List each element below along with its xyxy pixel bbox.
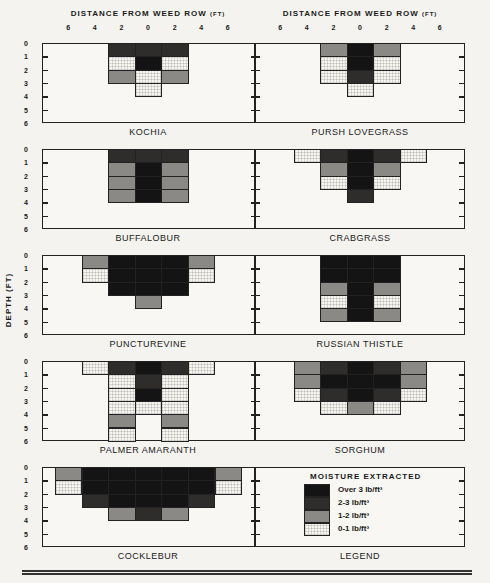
moisture-cell bbox=[320, 374, 348, 388]
moisture-cell bbox=[82, 268, 110, 282]
tick-mark bbox=[42, 322, 48, 324]
tick-mark bbox=[254, 96, 260, 98]
y-tick-label: 4 bbox=[24, 93, 28, 100]
tick-mark bbox=[42, 110, 48, 112]
moisture-cell bbox=[108, 361, 136, 375]
moisture-cell bbox=[161, 361, 189, 375]
moisture-cell bbox=[373, 295, 401, 309]
y-tick-label: 1 bbox=[24, 53, 28, 60]
y-tick-label: 4 bbox=[24, 305, 28, 312]
moisture-cell bbox=[347, 388, 375, 402]
y-tick-label: 6 bbox=[24, 119, 28, 126]
tick-mark bbox=[254, 428, 260, 430]
y-tick-label: 0 bbox=[24, 358, 28, 365]
moisture-cell bbox=[135, 361, 163, 375]
moisture-cell bbox=[320, 308, 348, 322]
moisture-cell bbox=[161, 507, 189, 521]
x-tick-label: 6 bbox=[66, 24, 70, 31]
moisture-cell bbox=[135, 467, 163, 481]
tick-mark bbox=[42, 268, 48, 270]
y-tick-label: 5 bbox=[24, 212, 28, 219]
tick-mark bbox=[254, 189, 260, 191]
moisture-cell bbox=[135, 176, 163, 190]
moisture-cell bbox=[347, 83, 375, 97]
moisture-cell bbox=[320, 401, 348, 415]
moisture-cell bbox=[373, 162, 401, 176]
moisture-cell bbox=[135, 162, 163, 176]
moisture-cell bbox=[108, 428, 136, 442]
moisture-cell bbox=[320, 149, 348, 163]
y-tick-label: 2 bbox=[24, 278, 28, 285]
moisture-cell bbox=[400, 388, 428, 402]
tick-mark bbox=[254, 480, 260, 482]
moisture-cell bbox=[320, 56, 348, 70]
tick-mark bbox=[254, 162, 260, 164]
tick-mark bbox=[459, 282, 465, 284]
moisture-cell bbox=[108, 43, 136, 57]
tick-mark bbox=[459, 202, 465, 204]
legend-item-label: 0-1 lb/ft³ bbox=[338, 524, 369, 533]
x-tick-label: 2 bbox=[173, 24, 177, 31]
panel-label-kochia: KOCHIA bbox=[42, 127, 254, 137]
moisture-cell bbox=[55, 467, 83, 481]
moisture-cell bbox=[55, 480, 83, 494]
tick-mark bbox=[459, 414, 465, 416]
moisture-cell bbox=[108, 176, 136, 190]
tick-mark bbox=[42, 534, 48, 536]
tick-mark bbox=[459, 520, 465, 522]
y-tick-label: 5 bbox=[24, 106, 28, 113]
y-tick-label: 1 bbox=[24, 371, 28, 378]
y-tick-label: 4 bbox=[24, 411, 28, 418]
moisture-cell bbox=[135, 149, 163, 163]
tick-mark bbox=[254, 56, 260, 58]
moisture-cell bbox=[108, 149, 136, 163]
y-tick-label: 3 bbox=[24, 79, 28, 86]
moisture-cell bbox=[320, 282, 348, 296]
moisture-cell bbox=[108, 467, 136, 481]
moisture-cell bbox=[161, 480, 189, 494]
tick-mark bbox=[254, 268, 260, 270]
moisture-cell bbox=[400, 361, 428, 375]
legend-item-label: 1-2 lb/ft³ bbox=[338, 511, 369, 520]
tick-mark bbox=[42, 176, 48, 178]
moisture-cell bbox=[188, 361, 216, 375]
moisture-cell bbox=[320, 162, 348, 176]
moisture-cell bbox=[347, 282, 375, 296]
tick-mark bbox=[459, 388, 465, 390]
moisture-cell bbox=[161, 494, 189, 508]
y-tick-label: 5 bbox=[24, 530, 28, 537]
moisture-cell bbox=[215, 467, 243, 481]
x-tick-label: 2 bbox=[385, 24, 389, 31]
y-tick-label: 2 bbox=[24, 384, 28, 391]
moisture-cell bbox=[161, 149, 189, 163]
moisture-cell bbox=[347, 308, 375, 322]
tick-mark bbox=[254, 216, 260, 218]
x-tick-label: 6 bbox=[438, 24, 442, 31]
tick-mark bbox=[254, 282, 260, 284]
y-tick-label: 0 bbox=[24, 464, 28, 471]
tick-mark bbox=[42, 374, 48, 376]
moisture-cell bbox=[135, 43, 163, 57]
tick-mark bbox=[42, 189, 48, 191]
moisture-cell bbox=[135, 282, 163, 296]
y-tick-label: 4 bbox=[24, 199, 28, 206]
moisture-cell bbox=[373, 149, 401, 163]
tick-mark bbox=[42, 494, 48, 496]
y-tick-label: 5 bbox=[24, 318, 28, 325]
tick-mark bbox=[254, 534, 260, 536]
moisture-cell bbox=[373, 56, 401, 70]
tick-mark bbox=[42, 388, 48, 390]
moisture-cell bbox=[320, 388, 348, 402]
moisture-cell bbox=[135, 480, 163, 494]
y-tick-label: 3 bbox=[24, 503, 28, 510]
moisture-cell bbox=[347, 361, 375, 375]
tick-mark bbox=[42, 520, 48, 522]
moisture-cell bbox=[161, 282, 189, 296]
moisture-cell bbox=[161, 374, 189, 388]
moisture-cell bbox=[188, 494, 216, 508]
legend-item-label: Over 3 lb/ft³ bbox=[338, 485, 382, 494]
legend-swatch bbox=[304, 497, 330, 510]
y-tick-label: 2 bbox=[24, 172, 28, 179]
moisture-cell bbox=[108, 162, 136, 176]
tick-mark bbox=[42, 216, 48, 218]
